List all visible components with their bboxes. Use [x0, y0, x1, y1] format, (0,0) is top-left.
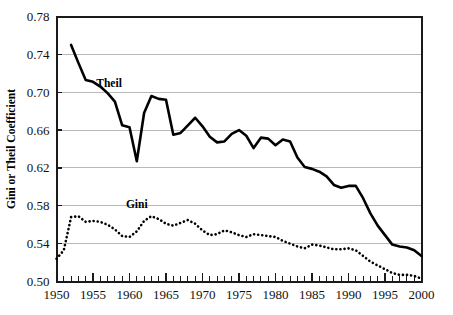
y-axis-tick-label: 0.70 — [27, 85, 50, 100]
line-chart: 0.500.540.580.620.660.700.740.7819501955… — [0, 0, 453, 315]
plot-frame — [57, 17, 422, 282]
series-annotation-gini: Gini — [126, 198, 149, 210]
x-axis-tick-label: 1950 — [44, 287, 70, 302]
x-axis-tick-label: 1985 — [299, 287, 325, 302]
x-axis-tick-label: 1955 — [80, 287, 106, 302]
x-axis-tick-label: 1975 — [226, 287, 252, 302]
y-axis-title: Gini or Theil Coefficient — [5, 89, 17, 209]
x-axis-tick-label: 2000 — [409, 287, 435, 302]
y-axis-tick-label: 0.66 — [27, 123, 50, 138]
x-axis-tick-label: 1960 — [117, 287, 143, 302]
y-axis-tick-label: 0.58 — [27, 198, 50, 213]
x-axis-tick-label: 1980 — [263, 287, 289, 302]
chart-figure: 0.500.540.580.620.660.700.740.7819501955… — [0, 0, 453, 315]
x-axis-tick-label: 1965 — [153, 287, 179, 302]
x-axis-tick-label: 1995 — [372, 287, 398, 302]
series-line-theil — [71, 45, 421, 256]
x-axis-tick-label: 1970 — [190, 287, 216, 302]
series-line-gini — [57, 216, 422, 278]
y-axis-tick-label: 0.54 — [27, 236, 50, 251]
y-axis-tick-label: 0.62 — [27, 160, 50, 175]
y-axis-tick-label: 0.74 — [27, 47, 50, 62]
y-axis-tick-label: 0.78 — [27, 9, 50, 24]
x-axis-tick-label: 1990 — [336, 287, 362, 302]
series-annotation-theil: Theil — [96, 77, 122, 89]
